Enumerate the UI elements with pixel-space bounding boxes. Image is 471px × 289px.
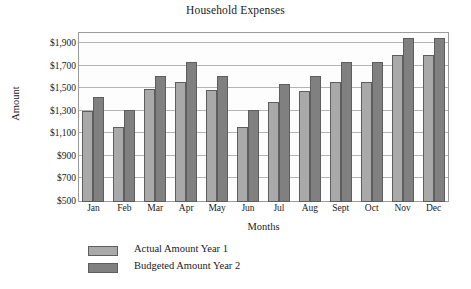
bar-nov-budgeted: [403, 38, 414, 202]
bar-group-jun: [237, 32, 259, 202]
bar-group-sept: [330, 32, 352, 202]
bar-apr-actual: [175, 82, 186, 202]
y-tick-label: $500: [28, 197, 76, 207]
chart-figure: Household Expenses Amount $500$700$900$1…: [0, 0, 471, 289]
bar-dec-actual: [423, 55, 434, 202]
bar-group-aug: [299, 32, 321, 202]
bar-mar-actual: [144, 89, 155, 202]
bar-jul-actual: [268, 102, 279, 202]
legend-swatch-icon: [88, 246, 118, 256]
y-tick-label: $700: [28, 174, 76, 184]
chart-legend: Actual Amount Year 1Budgeted Amount Year…: [88, 243, 418, 277]
bar-group-feb: [113, 32, 135, 202]
x-axis-tick-labels: JanFebMarAprMayJunJulAugSeptOctNovDec: [78, 203, 449, 219]
bar-feb-budgeted: [124, 110, 135, 202]
bar-group-dec: [423, 32, 445, 202]
y-tick-label: $1,100: [28, 129, 76, 139]
bar-aug-actual: [299, 91, 310, 202]
y-tick-label: $900: [28, 152, 76, 162]
bar-may-actual: [206, 90, 217, 202]
bar-sept-budgeted: [341, 62, 352, 202]
bar-group-nov: [392, 32, 414, 202]
bar-oct-actual: [361, 82, 372, 202]
bar-group-jul: [268, 32, 290, 202]
bars-layer: [78, 32, 449, 202]
bar-jan-actual: [82, 111, 93, 202]
y-tick-label: $1,900: [28, 39, 76, 49]
bar-jun-budgeted: [248, 110, 259, 202]
y-tick-label: $1,500: [28, 84, 76, 94]
bar-jun-actual: [237, 127, 248, 202]
bar-group-oct: [361, 32, 383, 202]
y-tick-label: $1,300: [28, 107, 76, 117]
bar-group-apr: [175, 32, 197, 202]
legend-item-budgeted: Budgeted Amount Year 2: [88, 260, 418, 277]
legend-item-actual: Actual Amount Year 1: [88, 243, 418, 260]
bar-feb-actual: [113, 127, 124, 202]
bar-group-mar: [144, 32, 166, 202]
bar-oct-budgeted: [372, 62, 383, 202]
bar-apr-budgeted: [186, 62, 197, 202]
bar-may-budgeted: [217, 76, 228, 202]
x-axis-title: Months: [78, 221, 449, 232]
bar-mar-budgeted: [155, 76, 166, 202]
bar-jan-budgeted: [93, 97, 104, 202]
bar-dec-budgeted: [434, 38, 445, 202]
x-tick-label-dec: Dec: [413, 203, 455, 213]
y-axis-title: Amount: [10, 69, 21, 139]
bar-nov-actual: [392, 55, 403, 202]
bar-sept-actual: [330, 82, 341, 202]
bar-group-jan: [82, 32, 104, 202]
chart-title: Household Expenses: [0, 4, 471, 16]
legend-swatch-icon: [88, 263, 118, 273]
y-tick-label: $1,700: [28, 62, 76, 72]
legend-label: Actual Amount Year 1: [134, 243, 228, 254]
bar-aug-budgeted: [310, 76, 321, 202]
bar-group-may: [206, 32, 228, 202]
bar-jul-budgeted: [279, 84, 290, 202]
legend-label: Budgeted Amount Year 2: [134, 260, 240, 271]
